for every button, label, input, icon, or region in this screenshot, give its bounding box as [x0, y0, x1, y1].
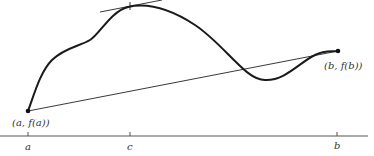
diagram-canvas — [0, 0, 374, 156]
label-tick-b: b — [334, 140, 340, 151]
function-curve — [28, 6, 338, 111]
point-b — [336, 49, 341, 54]
label-point-a: (a, f(a)) — [12, 117, 50, 128]
label-point-b: (b, f(b)) — [324, 60, 362, 71]
secant-line — [28, 51, 338, 111]
label-tick-c: c — [127, 141, 133, 152]
point-a — [26, 109, 31, 114]
mvt-diagram: (a, f(a)) (b, f(b)) a c b — [0, 0, 374, 156]
label-tick-a: a — [25, 141, 31, 152]
